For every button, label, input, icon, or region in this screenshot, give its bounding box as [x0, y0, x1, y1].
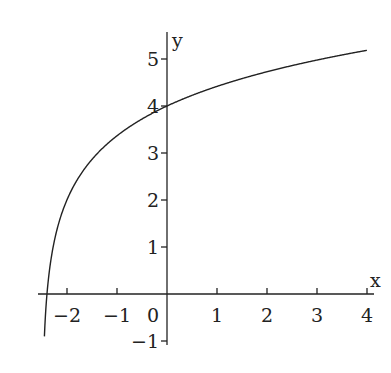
x-tick-label: 4: [361, 304, 373, 326]
y-tick-label: −1: [131, 330, 159, 352]
x-tick-label: 3: [311, 304, 323, 326]
y-tick-label: 5: [147, 48, 159, 70]
y-axis-label: y: [171, 29, 183, 51]
x-tick-label: 1: [211, 304, 223, 326]
plot-area: −2−101234−112345 x y: [0, 0, 391, 373]
y-tick-label: 3: [147, 142, 159, 164]
ticks: −2−101234−112345: [53, 48, 373, 352]
x-axis-label: x: [370, 269, 381, 291]
x-tick-label: 0: [147, 304, 159, 326]
y-tick-label: 2: [147, 189, 159, 211]
y-tick-label: 1: [147, 236, 159, 258]
x-tick-label: −2: [53, 304, 81, 326]
chart: −2−101234−112345 x y: [0, 0, 391, 373]
x-tick-label: 2: [261, 304, 273, 326]
x-tick-label: −1: [103, 304, 131, 326]
axes: [38, 32, 374, 345]
